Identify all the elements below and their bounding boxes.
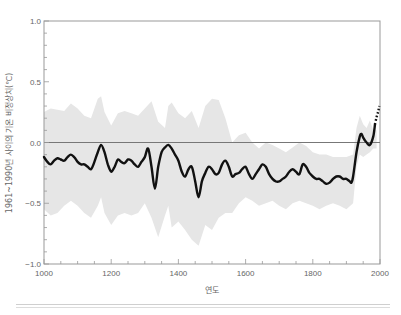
- temperature-anomaly-chart: 1000120014001600180020001.00.50.0−0.5−1.…: [0, 0, 401, 315]
- y-tick-label: 0.5: [30, 78, 42, 87]
- x-tick-label: 1400: [170, 269, 188, 278]
- y-tick-label: −0.5: [25, 199, 41, 208]
- x-tick-label: 1800: [304, 269, 322, 278]
- footer-divider: [16, 304, 390, 308]
- x-axis-title: 연도: [205, 286, 219, 295]
- x-tick-label: 1000: [35, 269, 53, 278]
- x-tick-label: 2000: [371, 269, 389, 278]
- y-tick-label: −1.0: [25, 260, 41, 269]
- y-tick-label: 1.0: [30, 17, 42, 26]
- uncertainty-band: [44, 96, 377, 246]
- x-tick-label: 1600: [237, 269, 255, 278]
- y-tick-label: 0.0: [30, 139, 42, 148]
- x-tick-label: 1200: [102, 269, 120, 278]
- y-axis-title: 1961~1990년 사이의 기온 비정상치(℃): [4, 73, 14, 213]
